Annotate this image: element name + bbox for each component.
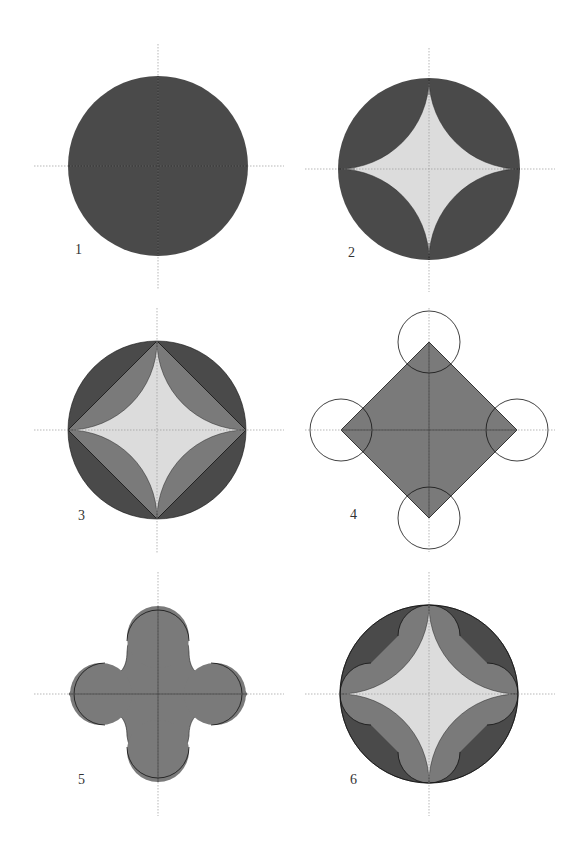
figure-4: 4 [305,308,555,552]
figure-5: 5 [34,572,284,816]
figure-3: 3 [34,308,284,553]
figure-label: 4 [350,507,357,522]
figure-label: 2 [348,245,355,260]
figure-label: 3 [78,508,85,523]
figure-label: 5 [78,772,85,787]
figure-6: 6 [305,572,555,816]
figure-label: 1 [75,242,82,257]
figure-1: 1 [34,44,284,290]
diagram-canvas: 1 2 3 4 [0,0,584,856]
figure-2: 2 [305,48,555,292]
figure-label: 6 [350,772,357,787]
